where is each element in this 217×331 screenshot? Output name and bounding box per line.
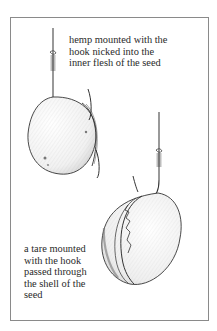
- caption-line: seed: [24, 289, 102, 301]
- hook-point-icon: [133, 176, 138, 192]
- caption-line: the shell of the: [24, 278, 102, 290]
- caption-line: inner flesh of the seed: [69, 57, 209, 69]
- caption-tare: a tare mounted with the hook passed thro…: [24, 243, 102, 301]
- caption-line: a tare mounted: [24, 243, 102, 255]
- caption-line: hemp mounted with the: [69, 34, 209, 46]
- caption-line: passed through: [24, 266, 102, 278]
- caption-hemp: hemp mounted with the hook nicked into t…: [69, 34, 209, 69]
- caption-line: hook nicked into the: [69, 46, 209, 58]
- whipping-knot-icon: [157, 154, 162, 166]
- caption-line: with the hook: [24, 255, 102, 267]
- tare-seed-illustration: [102, 112, 181, 285]
